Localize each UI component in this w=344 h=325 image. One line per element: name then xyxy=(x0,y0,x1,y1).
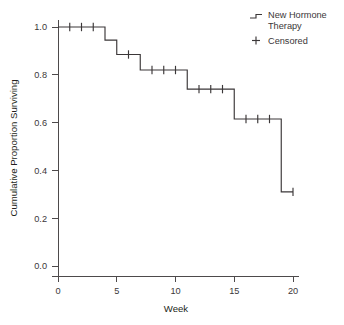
y-tick-label-5: 1.0 xyxy=(34,22,47,32)
x-tick-label-4: 20 xyxy=(288,286,298,296)
x-tick-label-1: 5 xyxy=(114,286,119,296)
y-axis-title: Cumulative Proportion Surviving xyxy=(8,79,19,216)
x-tick-label-0: 0 xyxy=(55,286,60,296)
kaplan-meier-chart: 0.00.20.40.60.81.0 05101520 Week Cumulat… xyxy=(0,0,344,325)
x-tick-label-3: 15 xyxy=(229,286,239,296)
x-tick-label-2: 10 xyxy=(170,286,180,296)
y-tick-label-0: 0.0 xyxy=(34,261,47,271)
legend-item-censored: Censored xyxy=(268,36,308,46)
chart-canvas: 0.00.20.40.60.81.0 05101520 Week Cumulat… xyxy=(0,0,344,325)
plus-icon xyxy=(252,37,260,45)
survival-curve-group xyxy=(58,27,293,192)
legend-item-new-hormone-therapy-line1: New Hormone xyxy=(268,10,327,20)
x-axis-title: Week xyxy=(164,303,189,314)
legend-item-new-hormone-therapy-line2: Therapy xyxy=(268,21,302,31)
step-line-icon xyxy=(250,15,262,19)
y-tick-label-3: 0.6 xyxy=(34,118,47,128)
y-tick-label-4: 0.8 xyxy=(34,70,47,80)
y-tick-label-2: 0.4 xyxy=(34,166,47,176)
y-tick-group: 0.00.20.40.60.81.0 xyxy=(34,22,58,271)
censored-marks-group xyxy=(70,23,293,196)
chart-legend: New Hormone Therapy Censored xyxy=(250,10,327,46)
y-tick-label-1: 0.2 xyxy=(34,214,47,224)
axes-group xyxy=(52,20,299,276)
x-tick-group: 05101520 xyxy=(55,276,298,296)
new-hormone-therapy-step-line xyxy=(58,27,293,192)
